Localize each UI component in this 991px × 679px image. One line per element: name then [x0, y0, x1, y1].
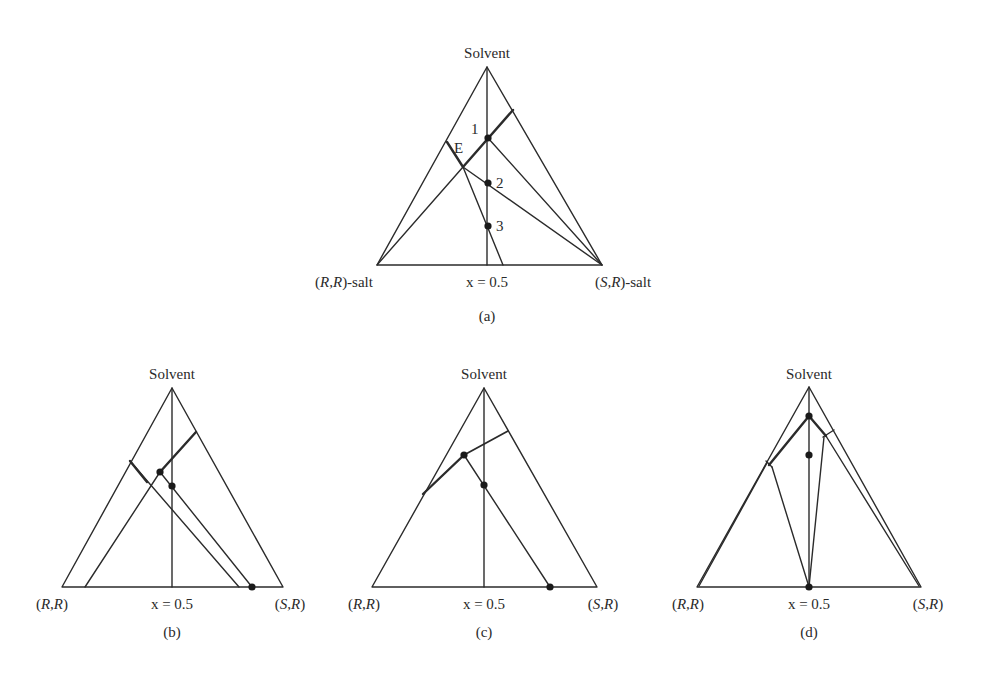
panel-c-left-label: (R,R): [348, 597, 380, 612]
panel-d-right-label: (S,R): [913, 597, 943, 612]
panel-c-upper-curve: [464, 431, 508, 455]
panel-b-lower-branch: [85, 472, 160, 587]
panel-d-apex-label: Solvent: [786, 367, 832, 382]
panel-c-right-label: (S,R): [588, 597, 618, 612]
panel-a-point-2: [484, 179, 491, 186]
panel-d-solubility-curve: [769, 416, 826, 465]
panel-a-right-label: (S,R)-salt: [595, 275, 651, 290]
panel-b-right-label: (S,R): [275, 597, 305, 612]
panel-c-apex-label: Solvent: [461, 367, 507, 382]
panel-a-tie-line-E-RR: [377, 167, 463, 265]
panel-a-diagram: [377, 67, 602, 265]
panel-b-apex-label: Solvent: [149, 367, 195, 382]
panel-a-label-1: 1: [471, 122, 479, 137]
panel-c-tie-line: [464, 455, 550, 587]
panel-a-label-2: 2: [496, 176, 504, 191]
panel-a-caption: (a): [479, 309, 496, 324]
panel-b-center-label: x = 0.5: [151, 597, 193, 612]
panel-d-point-mid: [805, 451, 812, 458]
panel-d-left-label: (R,R): [672, 597, 704, 612]
panel-d-caption: (d): [800, 625, 818, 640]
panel-c-caption: (c): [476, 625, 493, 640]
panel-c-center-label: x = 0.5: [463, 597, 505, 612]
panel-a-point-3: [484, 222, 491, 229]
panel-a-apex-label: Solvent: [464, 46, 510, 61]
panel-b-solubility-curve: [160, 432, 196, 472]
panel-a-left-label: (R,R)-salt: [315, 275, 373, 290]
panel-a-label-3: 3: [496, 219, 504, 234]
panel-d-point-top: [805, 412, 812, 419]
panel-b-diagram: [62, 388, 283, 591]
panel-a-point-1: [484, 134, 491, 141]
panel-b-point-base: [248, 583, 255, 590]
panel-c-point-base: [546, 583, 553, 590]
panel-d-diagram: [697, 387, 921, 591]
panel-b-right-tie: [160, 472, 252, 587]
panel-b-point-mid: [168, 482, 175, 489]
panel-d-point-base: [805, 583, 812, 590]
panel-d-left-to-center: [772, 467, 809, 587]
panel-d-right-to-center: [809, 437, 824, 587]
panel-b-thick-tick: [130, 461, 147, 482]
ternary-diagrams: [0, 0, 991, 679]
panel-a-label-E: E: [454, 141, 463, 156]
panel-c-diagram: [372, 388, 597, 591]
panel-d-left-inner: [699, 463, 767, 586]
panel-a-solubility-curve: [447, 110, 513, 167]
panel-c-point-upper: [460, 451, 467, 458]
panel-b-point-upper: [156, 468, 163, 475]
panel-b-caption: (b): [163, 625, 181, 640]
panel-a-center-label: x = 0.5: [466, 275, 508, 290]
panel-d-right-inner: [826, 436, 919, 586]
panel-a-1-to-SR: [488, 138, 602, 265]
panel-a-triangle: [377, 67, 602, 265]
panel-b-left-label: (R,R): [36, 597, 68, 612]
panel-d-center-label: x = 0.5: [788, 597, 830, 612]
panel-a-E-to-SR: [463, 167, 602, 265]
panel-c-point-mid: [480, 481, 487, 488]
